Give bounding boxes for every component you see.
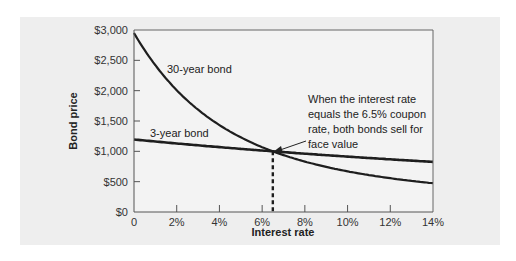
x-tick-label: 0 <box>131 216 137 228</box>
x-tick-label: 2% <box>169 216 185 228</box>
y-axis-ticks: $0$500$1,000$1,500$2,000$2,500$3,000 <box>94 24 140 218</box>
y-tick-label: $2,500 <box>94 54 128 66</box>
bond-price-chart: $0$500$1,000$1,500$2,000$2,500$3,000 02%… <box>0 0 516 261</box>
y-tick-label: $3,000 <box>94 24 128 36</box>
annotation-line-2: equals the 6.5% coupon <box>308 108 426 120</box>
x-tick-label: 14% <box>422 216 444 228</box>
x-tick-label: 12% <box>379 216 401 228</box>
series-label-30-year: 30-year bond <box>167 63 232 75</box>
annotation-line-3: rate, both bonds sell for <box>308 123 423 135</box>
plot-area <box>134 30 433 212</box>
annotation-line-1: When the interest rate <box>308 93 416 105</box>
y-axis-title: Bond price <box>67 92 79 149</box>
y-tick-label: $500 <box>104 176 128 188</box>
annotation-line-4: face value <box>308 138 358 150</box>
y-tick-label: $1,000 <box>94 145 128 157</box>
y-tick-label: $2,000 <box>94 85 128 97</box>
series-label-3-year: 3-year bond <box>150 127 209 139</box>
y-tick-label: $0 <box>116 206 128 218</box>
x-tick-label: 4% <box>211 216 227 228</box>
y-tick-label: $1,500 <box>94 115 128 127</box>
x-axis-title: Interest rate <box>252 226 315 238</box>
x-tick-label: 10% <box>337 216 359 228</box>
